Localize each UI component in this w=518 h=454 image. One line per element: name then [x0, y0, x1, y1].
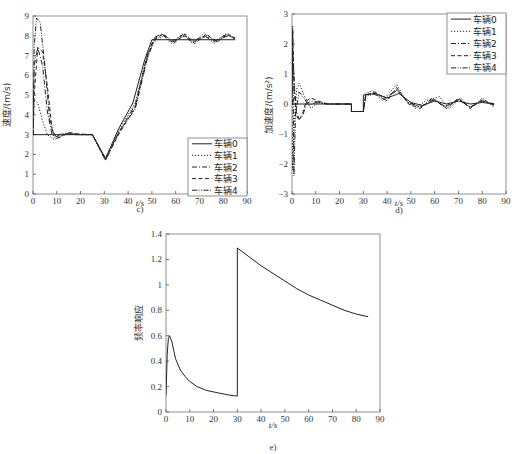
x-tick-label: 90 [502, 196, 512, 206]
x-tick-label: 20 [76, 196, 86, 206]
y-tick-label: 3 [284, 9, 289, 19]
legend-item-label: 车辆1 [473, 26, 497, 37]
x-tick-label: 60 [171, 196, 181, 206]
figure-caption: e) [270, 442, 277, 452]
y-tick-label: 0.2 [151, 382, 162, 392]
y-tick-label: 0 [25, 189, 30, 199]
y-tick-label: 0 [284, 99, 289, 109]
legend-item-label: 车辆3 [214, 173, 238, 184]
y-tick-label: 1 [284, 69, 289, 79]
x-tick-label: 30 [233, 414, 243, 424]
x-tick-label: 80 [352, 414, 362, 424]
x-tick-label: 10 [185, 414, 195, 424]
x-tick-label: 50 [406, 196, 416, 206]
y-tick-label: 8 [25, 31, 30, 41]
y-axis-label: 速度/(m/s) [1, 83, 12, 128]
x-tick-label: 50 [280, 414, 290, 424]
x-tick-label: 40 [383, 196, 393, 206]
x-tick-label: 70 [454, 196, 464, 206]
x-tick-label: 80 [219, 196, 229, 206]
y-tick-label: 0.8 [151, 305, 163, 315]
y-tick-label: −2 [278, 159, 288, 169]
y-tick-label: 5 [25, 90, 30, 100]
figure-caption: d) [395, 205, 403, 215]
y-tick-label: −3 [278, 189, 288, 199]
figure-caption: c) [137, 204, 144, 214]
chart-acceleration: 0102030405060708090−3−2−10123t/sd)加速度/(m… [263, 9, 511, 215]
y-tick-label: 0.6 [151, 331, 163, 341]
y-tick-label: 0 [158, 407, 163, 417]
x-tick-label: 70 [195, 196, 205, 206]
x-axis-label: t/s [269, 420, 278, 430]
x-tick-label: 10 [311, 196, 321, 206]
y-tick-label: −1 [278, 129, 288, 139]
x-tick-label: 50 [147, 196, 157, 206]
legend-item-label: 车辆0 [214, 138, 238, 149]
chart-velocity: 01020304050607080900123456789t/sc)速度/(m/… [1, 11, 252, 214]
x-tick-label: 20 [209, 414, 219, 424]
legend-item-label: 车辆3 [473, 50, 497, 61]
x-tick-label: 60 [304, 414, 314, 424]
x-tick-label: 80 [478, 196, 488, 206]
x-tick-label: 0 [290, 196, 295, 206]
legend-item-label: 车辆2 [473, 38, 497, 49]
legend-item-label: 车辆1 [214, 150, 238, 161]
x-tick-label: 90 [243, 196, 253, 206]
y-tick-label: 6 [25, 70, 30, 80]
legend-item-label: 车辆0 [473, 14, 497, 25]
legend-item-label: 车辆4 [214, 185, 238, 196]
y-tick-label: 1 [25, 169, 30, 179]
y-tick-label: 1.2 [151, 254, 162, 264]
x-tick-label: 0 [164, 414, 169, 424]
x-tick-label: 60 [430, 196, 440, 206]
legend: 车辆0车辆1车辆2车辆3车辆4 [447, 13, 506, 74]
x-tick-label: 40 [257, 414, 267, 424]
y-tick-label: 0.4 [151, 356, 163, 366]
plot-frame [166, 234, 380, 412]
x-tick-label: 0 [31, 196, 36, 206]
y-tick-label: 4 [25, 110, 30, 120]
y-tick-label: 1.4 [151, 229, 163, 239]
chart-frequency-response: 010203040506070809000.20.40.60.811.21.4t… [133, 229, 385, 452]
x-tick-label: 30 [359, 196, 369, 206]
y-tick-label: 7 [25, 51, 30, 61]
y-axis-label: 加速度/(m/s²) [263, 76, 274, 133]
y-tick-label: 2 [25, 149, 30, 159]
x-tick-label: 90 [376, 414, 386, 424]
x-tick-label: 30 [100, 196, 110, 206]
y-tick-label: 9 [25, 11, 30, 21]
y-tick-label: 2 [284, 39, 289, 49]
x-tick-label: 10 [52, 196, 62, 206]
y-tick-label: 1 [158, 280, 163, 290]
legend: 车辆0车辆1车辆2车辆3车辆4 [188, 138, 247, 196]
legend-item-label: 车辆2 [214, 162, 238, 173]
y-tick-label: 3 [25, 130, 30, 140]
legend-item-label: 车辆4 [473, 62, 497, 73]
x-tick-label: 40 [124, 196, 134, 206]
x-tick-label: 70 [328, 414, 338, 424]
series-line [166, 248, 368, 396]
figure-canvas: 01020304050607080900123456789t/sc)速度/(m/… [0, 0, 518, 454]
y-axis-label: 频率响应 [133, 305, 144, 341]
x-tick-label: 20 [335, 196, 345, 206]
